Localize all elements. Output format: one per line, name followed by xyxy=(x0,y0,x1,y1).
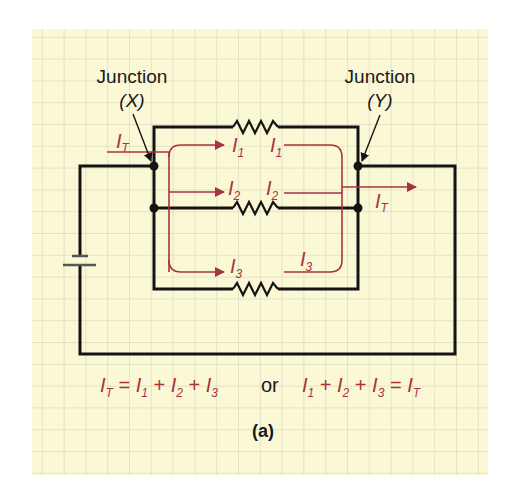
node-x-lower xyxy=(150,204,159,213)
junction-y-name: (Y) xyxy=(367,90,392,111)
junction-y-title: Junction xyxy=(345,66,416,87)
figure-caption: (a) xyxy=(252,421,274,441)
node-y-lower xyxy=(354,204,363,213)
node-y xyxy=(354,162,363,171)
equation-connector: or xyxy=(261,374,279,396)
parallel-circuit-diagram: Junction (X) Junction (Y) IT I1 I1 I2 I2… xyxy=(0,0,511,499)
node-x xyxy=(150,162,159,171)
junction-x-name: (X) xyxy=(119,90,144,111)
junction-x-title: Junction xyxy=(97,66,168,87)
grid-lines xyxy=(32,29,488,475)
